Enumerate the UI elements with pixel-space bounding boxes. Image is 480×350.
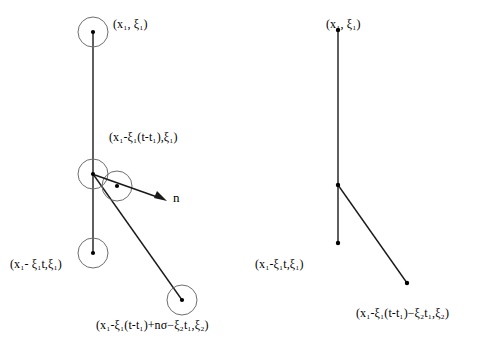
label-right-bottom-left: (x₁-ξ₁t,ξ₁): [255, 258, 304, 270]
label-left-top: (x₁, ξ₁): [113, 18, 148, 30]
right-lower-point: [336, 241, 340, 245]
left-top-point: [91, 30, 95, 34]
label-left-bottom-right: (x₁-ξ₁(t-t₁)+nσ−ξ₂t₁,ξ₂): [96, 319, 209, 331]
left-scattered-trajectory: [93, 174, 182, 300]
normal-vector-arrow-head: [154, 191, 167, 201]
label-right-bottom-right: (x₁-ξ₁(t-t₁)−ξ₂t₁,ξ₂): [356, 307, 449, 319]
label-left-middle: (x₁-ξ₁(t-t₁),ξ₁): [109, 131, 178, 143]
left-lower-point: [91, 251, 95, 255]
label-normal-vector: n: [173, 191, 180, 204]
left-scattered-point: [180, 298, 184, 302]
label-right-top: (x₁, ξ₁): [326, 18, 361, 30]
diagram-figure: (x₁, ξ₁) (x₁-ξ₁(t-t₁),ξ₁) (x₁- ξ₁t,ξ₁) (…: [0, 0, 480, 350]
left-panel: [78, 17, 197, 315]
diagram-canvas: [0, 0, 480, 350]
right-vertex-point: [336, 183, 340, 187]
right-panel: [336, 28, 409, 285]
label-left-bottom-left: (x₁- ξ₁t,ξ₁): [10, 258, 62, 270]
right-branch-trajectory: [338, 185, 407, 283]
left-collision-point-b: [115, 184, 119, 188]
right-branch-end-point: [405, 281, 409, 285]
left-collision-point-a: [91, 172, 95, 176]
